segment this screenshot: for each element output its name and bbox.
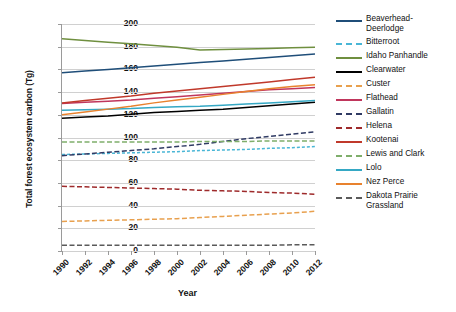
x-axis-tick-mark [154, 251, 155, 255]
legend-label: Dakota Prairie Grassland [366, 191, 418, 212]
legend-swatch [336, 136, 362, 147]
legend-swatch [336, 38, 362, 49]
y-axis-title: Total forest ecosystem carbon (Tg) [24, 34, 34, 244]
x-axis-tick-mark [269, 251, 270, 255]
legend-item[interactable]: Beaverhead- Deerlodge [336, 14, 456, 35]
x-axis-tick-mark [85, 251, 86, 255]
series-line [62, 186, 315, 194]
legend-label: Flathead [366, 93, 398, 103]
legend-label: Gallatin [366, 107, 394, 117]
legend-swatch [336, 15, 362, 26]
legend-swatch [336, 66, 362, 77]
series-line [62, 141, 315, 142]
legend-label: Custer [366, 79, 390, 89]
x-axis-tick-mark [223, 251, 224, 255]
legend-label: Helena [366, 121, 392, 131]
legend-label: Kootenai [366, 135, 398, 145]
legend-swatch [336, 108, 362, 119]
plot-area: 1990199219941996199820002002200420062008… [61, 24, 315, 252]
legend-item[interactable]: Bitterroot [336, 37, 456, 49]
legend-swatch [336, 94, 362, 105]
legend-label: Bitterroot [366, 37, 399, 47]
x-axis-tick-mark [108, 251, 109, 255]
x-axis-tick-mark [292, 251, 293, 255]
x-axis-tick-mark [131, 251, 132, 255]
x-axis-tick-mark [62, 251, 63, 255]
legend-swatch [336, 52, 362, 63]
legend-item[interactable]: Kootenai [336, 135, 456, 147]
legend-swatch [336, 164, 362, 175]
legend-item[interactable]: Custer [336, 79, 456, 91]
legend-item[interactable]: Lolo [336, 163, 456, 175]
legend-label: Beaverhead- Deerlodge [366, 14, 413, 35]
gridline [62, 251, 315, 252]
x-axis-tick-mark [200, 251, 201, 255]
series-line [62, 245, 315, 246]
legend-swatch [336, 122, 362, 133]
series-line [62, 132, 315, 156]
chart-legend: Beaverhead- DeerlodgeBitterrootIdaho Pan… [336, 14, 456, 214]
legend-item[interactable]: Gallatin [336, 107, 456, 119]
x-axis-title: Year [61, 288, 314, 298]
legend-label: Nez Perce [366, 177, 404, 187]
series-line [62, 39, 315, 50]
legend-item[interactable]: Clearwater [336, 65, 456, 77]
legend-label: Clearwater [366, 65, 406, 75]
legend-swatch [336, 80, 362, 91]
legend-swatch [336, 178, 362, 189]
legend-label: Lewis and Clark [366, 149, 424, 159]
legend-item[interactable]: Nez Perce [336, 177, 456, 189]
x-axis-tick-mark [177, 251, 178, 255]
legend-swatch [336, 150, 362, 161]
legend-item[interactable]: Flathead [336, 93, 456, 105]
legend-label: Idaho Panhandle [366, 51, 428, 61]
legend-item[interactable]: Dakota Prairie Grassland [336, 191, 456, 212]
legend-item[interactable]: Helena [336, 121, 456, 133]
legend-label: Lolo [366, 163, 381, 173]
legend-item[interactable]: Idaho Panhandle [336, 51, 456, 63]
series-line [62, 211, 315, 221]
legend-item[interactable]: Lewis and Clark [336, 149, 456, 161]
x-axis-tick-mark [246, 251, 247, 255]
chart-container: Total forest ecosystem carbon (Tg) 02040… [0, 0, 456, 312]
data-lines [62, 24, 315, 251]
x-axis-tick-mark [315, 251, 316, 255]
legend-swatch [336, 192, 362, 203]
series-line [62, 54, 315, 73]
